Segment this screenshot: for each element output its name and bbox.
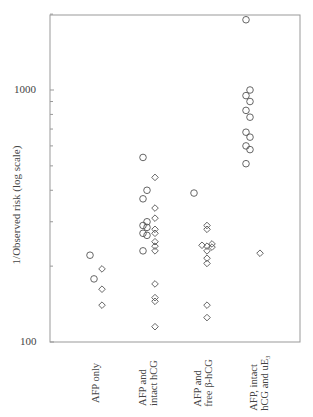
category-label-afp-free-bhcg: AFP andfree β-hCG xyxy=(188,350,218,415)
diamond-marker xyxy=(257,250,264,257)
category-label-afp-only: AFP only xyxy=(80,350,110,415)
circle-marker xyxy=(140,154,147,161)
diamond-marker xyxy=(152,238,159,245)
diamond-marker xyxy=(99,286,106,293)
circle-marker xyxy=(243,160,250,167)
diamond-marker xyxy=(152,281,159,288)
circle-marker xyxy=(243,16,250,23)
diamond-marker xyxy=(152,215,159,222)
data-points xyxy=(87,16,264,330)
circle-marker xyxy=(243,92,250,99)
diamond-marker xyxy=(204,248,211,255)
diamond-marker xyxy=(152,323,159,330)
diamond-marker xyxy=(152,226,159,233)
category-label-afp-intact-hcg-ue3: AFP, intacthCG and uE₃ xyxy=(244,350,274,415)
circle-marker xyxy=(247,114,254,121)
circle-marker xyxy=(144,232,151,239)
circle-marker xyxy=(91,276,98,283)
circle-marker xyxy=(247,98,254,105)
circle-marker xyxy=(140,196,147,203)
circle-marker xyxy=(140,222,147,229)
circle-marker xyxy=(87,252,94,259)
diamond-marker xyxy=(152,243,159,250)
diamond-marker xyxy=(99,302,106,309)
y-axis-ticks xyxy=(50,14,54,342)
circle-marker xyxy=(191,190,198,197)
scatter-chart: 1000 100 1/Observed risk (log scale) AFP… xyxy=(0,0,313,417)
diamond-marker xyxy=(152,205,159,212)
diamond-marker xyxy=(204,302,211,309)
diamond-marker xyxy=(204,314,211,321)
circle-marker xyxy=(243,107,250,114)
circle-marker xyxy=(243,143,250,150)
circle-marker xyxy=(247,146,254,153)
diamond-marker xyxy=(152,248,159,255)
circle-marker xyxy=(140,248,147,255)
category-label-afp-intact-hcg: AFP andintact hCG xyxy=(133,350,163,415)
diamond-marker xyxy=(99,266,106,273)
circle-marker xyxy=(247,134,254,141)
circle-marker xyxy=(140,230,147,237)
diamond-marker xyxy=(152,230,159,237)
circle-marker xyxy=(144,187,151,194)
diamond-marker xyxy=(152,174,159,181)
plot-frame xyxy=(50,15,300,342)
y-axis-label: 1/Observed risk (log scale) xyxy=(6,60,26,350)
